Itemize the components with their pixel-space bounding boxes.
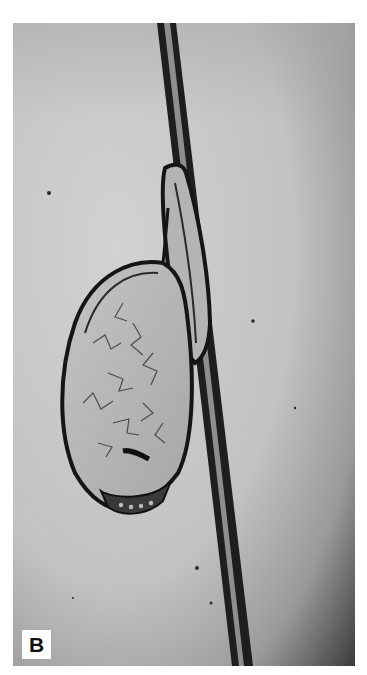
panel-label: B — [22, 630, 51, 659]
micrograph — [13, 23, 355, 666]
micrograph-image — [13, 23, 355, 666]
